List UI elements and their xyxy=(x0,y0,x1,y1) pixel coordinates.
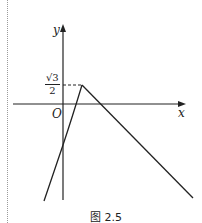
figure-caption: 图 2.5 xyxy=(0,208,202,223)
peak-value-numerator: √3 xyxy=(45,73,60,85)
y-axis-arrow-icon xyxy=(60,24,66,32)
origin-label: O xyxy=(52,108,62,120)
graph-canvas xyxy=(0,0,202,223)
peak-value-label: √3 2 xyxy=(45,73,60,96)
y-axis-label: y xyxy=(53,24,60,36)
falling-line xyxy=(82,85,193,198)
peak-value-denominator: 2 xyxy=(45,85,60,96)
figure: y x O √3 2 图 2.5 xyxy=(0,0,202,223)
x-axis-label: x xyxy=(178,107,185,119)
figure-caption-text: 图 2.5 xyxy=(90,211,122,223)
